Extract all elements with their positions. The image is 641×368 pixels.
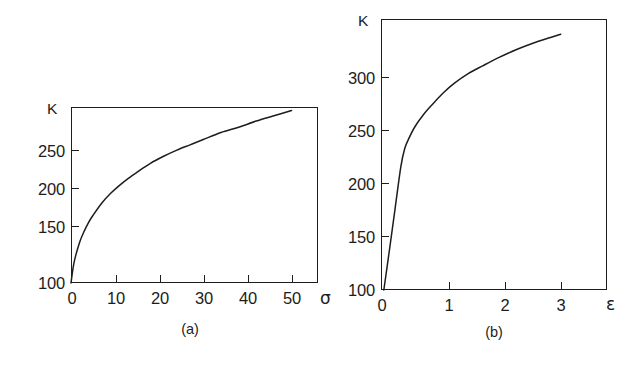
panel-a-y-axis-label: K — [47, 101, 57, 117]
panel-b-plot-frame — [381, 19, 607, 290]
panel-b: K 300 250 200 150 100 0 1 2 3 ε (b) — [340, 0, 641, 368]
panel-a-caption: (a) — [160, 322, 220, 337]
panel-b-y-tick-label-150: 150 — [335, 229, 375, 246]
panel-b-x-tick-label-0: 0 — [362, 297, 402, 314]
panel-b-x-tick-3 — [561, 282, 562, 289]
panel-b-x-axis-label: ε — [606, 296, 615, 313]
panel-a-x-tick-label-30: 30 — [184, 290, 224, 307]
panel-b-y-tick-200 — [382, 183, 389, 184]
panel-a-y-tick-label-250: 250 — [25, 143, 65, 160]
panel-a-x-tick-label-20: 20 — [140, 290, 180, 307]
panel-a-y-tick-label-200: 200 — [25, 181, 65, 198]
panel-a-x-tick-label-10: 10 — [96, 290, 136, 307]
panel-a-x-axis-label: σ — [320, 290, 331, 307]
panel-b-caption: (b) — [464, 325, 524, 340]
panel-a-x-tick-label-40: 40 — [228, 290, 268, 307]
panel-a-x-tick-50 — [292, 275, 293, 282]
panel-b-y-tick-label-250: 250 — [335, 123, 375, 140]
panel-b-y-tick-300 — [382, 77, 389, 78]
panel-a-x-tick-30 — [204, 275, 205, 282]
panel-b-y-tick-label-200: 200 — [335, 176, 375, 193]
panel-a: K 250 200 150 100 0 10 20 30 40 50 σ (a) — [0, 0, 340, 368]
panel-a-x-tick-40 — [248, 275, 249, 282]
panel-b-x-tick-2 — [505, 282, 506, 289]
panel-b-x-tick-label-1: 1 — [429, 297, 469, 314]
panel-a-x-tick-20 — [160, 275, 161, 282]
panel-a-x-tick-10 — [116, 275, 117, 282]
panel-b-x-tick-1 — [449, 282, 450, 289]
panel-b-y-tick-250 — [382, 130, 389, 131]
panel-b-x-tick-label-3: 3 — [541, 297, 581, 314]
panel-a-x-tick-label-50: 50 — [272, 290, 312, 307]
panel-b-y-tick-label-300: 300 — [335, 70, 375, 87]
figure-root: K 250 200 150 100 0 10 20 30 40 50 σ (a) — [0, 0, 641, 368]
panel-b-x-tick-label-2: 2 — [485, 297, 525, 314]
panel-a-y-tick-200 — [72, 188, 79, 189]
panel-b-y-axis-label: K — [358, 13, 368, 29]
panel-a-y-tick-label-150: 150 — [25, 219, 65, 236]
panel-a-y-tick-150 — [72, 226, 79, 227]
panel-a-x-tick-label-0: 0 — [52, 290, 92, 307]
panel-a-y-tick-250 — [72, 150, 79, 151]
panel-a-plot-frame — [71, 107, 318, 283]
panel-b-y-tick-150 — [382, 236, 389, 237]
